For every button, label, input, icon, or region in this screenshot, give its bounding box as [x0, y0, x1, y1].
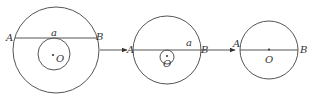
inner-circle-1: [38, 38, 70, 70]
label-o-1: O: [56, 53, 64, 64]
label-radius-a-2: a: [186, 37, 192, 48]
diagram-canvas: A B a O A B a O A B O: [0, 0, 311, 105]
label-b-point-1: B: [95, 31, 103, 42]
panel-1: A B a O: [5, 7, 103, 93]
label-o-3: O: [265, 54, 273, 65]
label-a-point-2: A: [126, 44, 134, 55]
label-radius-a-1: a: [51, 27, 57, 38]
panel-2: A B a O: [126, 16, 208, 84]
center-dot-1: [52, 54, 54, 56]
label-b-point-3: B: [299, 44, 307, 55]
center-dot-3: [268, 48, 270, 50]
label-a-point-3: A: [232, 38, 240, 49]
label-a-point-1: A: [5, 32, 13, 43]
center-dot-2: [166, 55, 168, 57]
label-o-2: O: [163, 58, 171, 69]
outer-circle-1: [13, 7, 99, 93]
panel-3: A B O: [232, 21, 307, 79]
